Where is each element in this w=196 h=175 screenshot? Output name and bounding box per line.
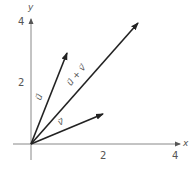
x-tick-4: 4 [172,150,178,161]
x-tick-2: 2 [100,150,106,161]
vector-u-plus-v [31,23,138,144]
y-tick-4: 4 [18,16,24,27]
x-axis-label: x [183,138,188,148]
vector-diagram [0,0,196,175]
y-tick-2: 2 [18,77,24,88]
y-axis-label: y [28,2,33,12]
